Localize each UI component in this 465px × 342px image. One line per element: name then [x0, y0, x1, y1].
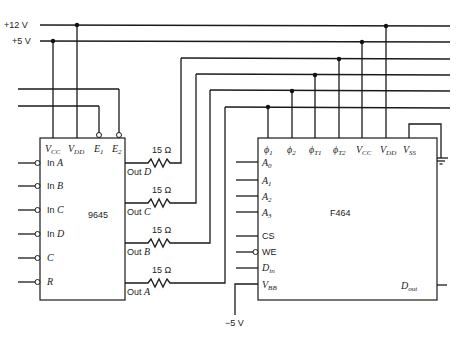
junction-dot: [51, 39, 55, 43]
chip-9645-label: 9645: [88, 210, 108, 220]
input-c: C: [47, 252, 54, 263]
output-out-d: Out D: [127, 166, 152, 177]
pin-we: WE: [262, 247, 277, 257]
input-in-a: In A: [47, 157, 64, 168]
resistor-label: 15 Ω: [152, 145, 172, 155]
input-in-c: In C: [47, 204, 64, 215]
chip-9645: 9645 VCC VDD E1 E2 In A In B In C In D C…: [18, 138, 152, 300]
chip-f464-label: F464: [330, 208, 351, 218]
junction-dot: [75, 23, 79, 27]
output-out-a: Out A: [127, 286, 151, 297]
input-r: R: [46, 276, 53, 287]
rail-label-plus12: +12 V: [4, 20, 28, 30]
pin-cs: CS: [262, 231, 275, 241]
chip-f464: F464 ϕ1 ϕ2 ϕT1 ϕT2 VCC VDD VSS A0 A1 A2 …: [235, 138, 447, 315]
output-out-b: Out B: [127, 246, 150, 257]
output-out-c: Out C: [127, 206, 151, 217]
rail-label-plus5: +5 V: [12, 36, 31, 46]
bus-lines: [18, 25, 450, 108]
chip-9645-power-wires: [51, 23, 122, 138]
circuit-diagram: +12 V +5 V 9645 VCC VDD E1 E2 In A: [0, 0, 465, 342]
resistor-label: 15 Ω: [152, 225, 172, 235]
rail-label-minus5: −5 V: [225, 318, 244, 328]
resistor-label: 15 Ω: [152, 185, 172, 195]
input-in-d: In D: [47, 228, 65, 239]
resistor-label: 15 Ω: [152, 265, 172, 275]
input-in-b: In B: [47, 180, 63, 191]
